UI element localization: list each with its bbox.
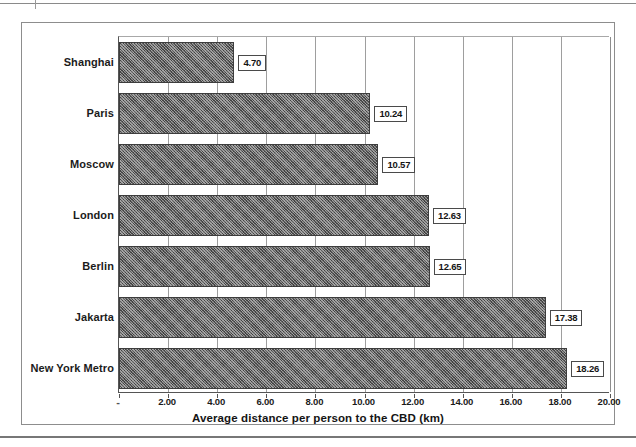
x-axis-tick-label: 12.00	[401, 396, 424, 407]
y-axis-label-berlin: Berlin	[82, 260, 114, 272]
bar-row	[119, 195, 609, 236]
bar-row	[119, 144, 609, 185]
bar-jakarta[interactable]	[119, 297, 546, 338]
data-label-london: 12.63	[433, 208, 466, 224]
bar-berlin[interactable]	[119, 246, 430, 287]
bar-row	[119, 93, 609, 134]
y-axis-category-labels: ShanghaiParisMoscowLondonBerlinJakartaNe…	[22, 36, 114, 393]
plot-area: 4.7010.2410.5712.6312.6517.3818.26	[118, 36, 609, 393]
page-top-rule-tick	[35, 0, 36, 9]
x-axis-tick-label: 16.00	[499, 396, 522, 407]
bar-shanghai[interactable]	[119, 42, 234, 83]
x-axis-title: Average distance per person to the CBD (…	[22, 412, 614, 424]
data-label-berlin: 12.65	[434, 259, 467, 275]
bars-layer: 4.7010.2410.5712.6312.6517.3818.26	[119, 37, 609, 392]
x-axis-tick-label: 8.00	[306, 396, 324, 407]
x-axis-tick-labels: -2.004.006.008.0010.0012.0014.0016.0018.…	[118, 396, 609, 412]
y-axis-label-paris: Paris	[87, 107, 114, 119]
gridline	[610, 37, 611, 392]
x-axis-tick-label: 18.00	[549, 396, 572, 407]
bar-paris[interactable]	[119, 93, 370, 134]
y-axis-label-shanghai: Shanghai	[64, 56, 114, 68]
data-label-moscow: 10.57	[382, 157, 415, 173]
bar-row	[119, 348, 609, 389]
y-axis-label-jakarta: Jakarta	[75, 311, 114, 323]
page-top-rule	[0, 3, 636, 4]
data-label-shanghai: 4.70	[238, 55, 266, 71]
x-axis-tick-label: 20.00	[598, 396, 621, 407]
bar-row	[119, 246, 609, 287]
bar-london[interactable]	[119, 195, 429, 236]
x-axis-tick-label: 2.00	[158, 396, 176, 407]
y-axis-label-moscow: Moscow	[70, 158, 114, 170]
x-axis-tick-label: 10.00	[352, 396, 375, 407]
bar-moscow[interactable]	[119, 144, 378, 185]
bar-row	[119, 42, 609, 83]
x-axis-tick-label: 14.00	[450, 396, 473, 407]
chart-frame: ShanghaiParisMoscowLondonBerlinJakartaNe…	[21, 22, 615, 425]
data-label-new-york-metro: 18.26	[571, 361, 604, 377]
page-bottom-rule	[0, 436, 636, 438]
bar-new-york-metro[interactable]	[119, 348, 567, 389]
x-axis-tick-label: 6.00	[256, 396, 274, 407]
bar-row	[119, 297, 609, 338]
y-axis-label-new-york-metro: New York Metro	[30, 362, 114, 374]
data-label-paris: 10.24	[374, 106, 407, 122]
data-label-jakarta: 17.38	[550, 310, 583, 326]
x-axis-tick-label: -	[116, 396, 119, 408]
y-axis-label-london: London	[73, 209, 114, 221]
x-axis-tick-label: 4.00	[207, 396, 225, 407]
